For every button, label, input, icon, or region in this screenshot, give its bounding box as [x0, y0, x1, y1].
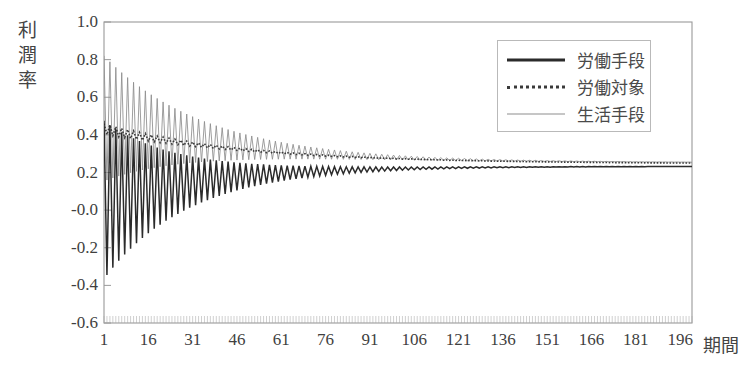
- legend-item: 労働手段: [505, 46, 643, 73]
- x-tick-label: 76: [317, 330, 334, 350]
- x-tick-label: 1: [100, 330, 109, 350]
- legend-line-sample-thin-solid: [505, 107, 567, 121]
- x-tick-label: 61: [273, 330, 290, 350]
- x-tick-label: 16: [140, 330, 157, 350]
- legend-line-sample-thick-solid: [505, 53, 567, 67]
- x-tick-label: 46: [228, 330, 245, 350]
- profit-rate-chart: 利潤率 1.00.80.60.40.2-0.0-0.2-0.4-0.6 1163…: [0, 0, 744, 367]
- x-tick-label: 121: [446, 330, 472, 350]
- legend-line-sample-dotted: [505, 80, 567, 94]
- x-tick-label: 106: [402, 330, 428, 350]
- legend: 労働手段 労働対象 生活手段: [497, 40, 651, 132]
- legend-item: 労働対象: [505, 73, 643, 100]
- x-tick-label: 31: [184, 330, 201, 350]
- x-tick-label: 181: [623, 330, 649, 350]
- x-tick-label: 196: [667, 330, 693, 350]
- x-axis-title: 期間: [703, 331, 739, 357]
- legend-item-label: 生活手段: [567, 101, 645, 126]
- legend-item: 生活手段: [505, 100, 643, 127]
- x-tick-label: 91: [361, 330, 378, 350]
- x-tick-label: 136: [490, 330, 516, 350]
- legend-item-label: 労働手段: [567, 47, 645, 72]
- x-tick-label: 166: [579, 330, 605, 350]
- x-tick-label: 151: [534, 330, 560, 350]
- legend-item-label: 労働対象: [567, 74, 645, 99]
